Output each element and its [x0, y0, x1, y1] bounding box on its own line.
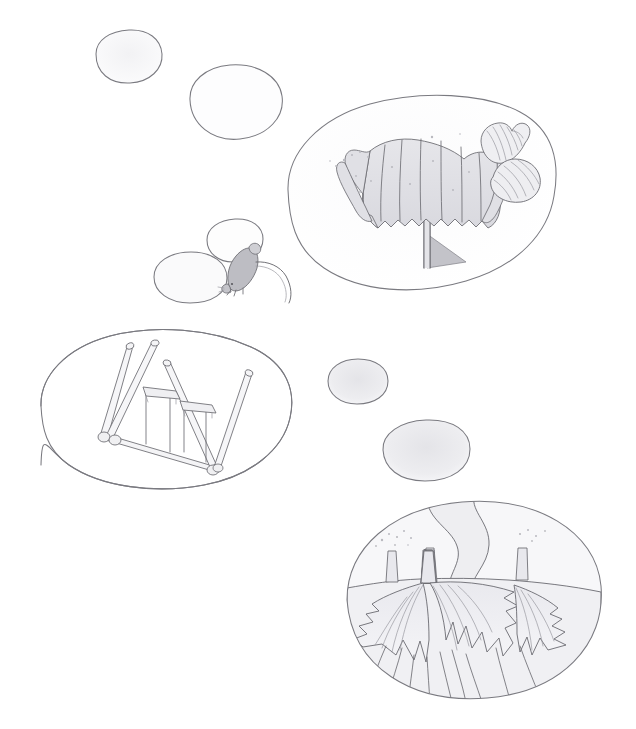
- vignette-blob-speech-lower: [154, 252, 227, 303]
- vignette-blob-swingset-scene: [41, 329, 292, 488]
- sketch-svg: [0, 0, 636, 729]
- vignette-blob-mid-right-large: [383, 420, 470, 481]
- vignette-blob-top-left-small: [96, 30, 162, 83]
- sketch-canvas: [0, 0, 636, 729]
- stalk-left: [421, 551, 436, 583]
- vignette-blob-mid-right-small: [328, 359, 388, 404]
- vignette-blob-top-left-large: [190, 65, 282, 140]
- stalk-right: [516, 548, 528, 580]
- stalk-center: [386, 551, 398, 582]
